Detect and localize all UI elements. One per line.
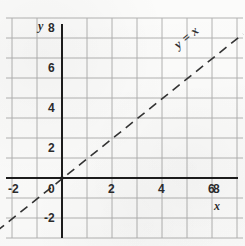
grid-lines: [6, 18, 243, 238]
origin-point: [60, 176, 64, 180]
y-tick-label-2: 2: [48, 142, 55, 154]
y-tick-label-minus-2: -2: [44, 212, 55, 224]
y-tick-label-6: 6: [48, 62, 55, 74]
x-tick-label-0: 0: [48, 183, 55, 195]
line-y-equals-x: [0, 34, 243, 231]
plot-canvas: [0, 0, 245, 246]
y-tick-label-4: 4: [48, 102, 55, 114]
y-tick-label-8: 8: [48, 22, 55, 34]
x-tick-label-minus-2: -2: [8, 183, 19, 195]
graph-figure: 8 6 4 2 -2 -2 0 2 4 6 8 y x y = x: [0, 0, 245, 246]
x-tick-label-4: 4: [158, 183, 165, 195]
x-tick-label-2: 2: [108, 183, 115, 195]
x-tick-label-8: 8: [213, 183, 220, 195]
y-axis-label: y: [38, 20, 43, 32]
x-axis-label: x: [214, 200, 220, 212]
